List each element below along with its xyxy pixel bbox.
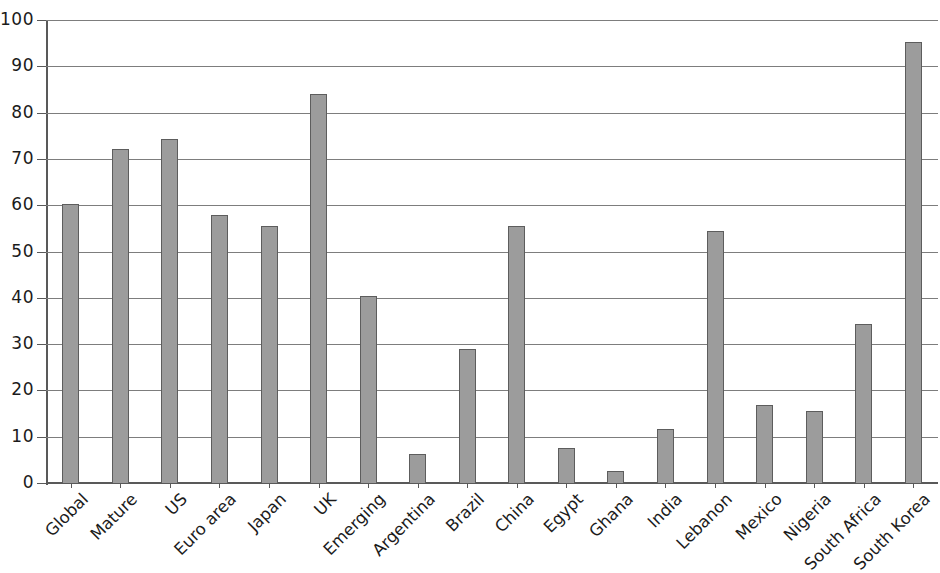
bar <box>112 149 129 483</box>
x-tick-mark <box>517 483 518 488</box>
plot-area <box>46 20 938 483</box>
y-tick-mark-90 <box>37 66 46 67</box>
gridline-60 <box>46 205 938 206</box>
gridline-20 <box>46 390 938 391</box>
gridline-10 <box>46 437 938 438</box>
x-tick-mark <box>418 483 419 488</box>
y-tick-label-30: 30 <box>0 335 34 352</box>
x-tick-mark <box>864 483 865 488</box>
y-tick-mark-100 <box>37 20 46 21</box>
x-tick-mark <box>170 483 171 488</box>
y-tick-mark-70 <box>37 159 46 160</box>
y-tick-label-20: 20 <box>0 381 34 398</box>
bar <box>607 471 624 483</box>
x-tick-mark <box>319 483 320 488</box>
y-tick-label-60: 60 <box>0 196 34 213</box>
x-tick-mark <box>566 483 567 488</box>
bar <box>508 226 525 483</box>
x-tick-mark <box>913 483 914 488</box>
gridline-80 <box>46 113 938 114</box>
y-tick-label-50: 50 <box>0 243 34 260</box>
y-tick-label-100: 100 <box>0 11 34 28</box>
y-tick-mark-40 <box>37 298 46 299</box>
bar <box>756 405 773 483</box>
y-tick-mark-0 <box>37 483 46 484</box>
gridline-50 <box>46 252 938 253</box>
gridline-70 <box>46 159 938 160</box>
y-tick-label-40: 40 <box>0 289 34 306</box>
y-tick-mark-30 <box>37 344 46 345</box>
bar <box>261 226 278 483</box>
gridline-100 <box>46 20 938 21</box>
y-tick-mark-60 <box>37 205 46 206</box>
y-tick-label-10: 10 <box>0 428 34 445</box>
y-tick-label-90: 90 <box>0 57 34 74</box>
x-tick-mark <box>665 483 666 488</box>
y-tick-mark-50 <box>37 252 46 253</box>
x-tick-mark <box>715 483 716 488</box>
x-tick-mark <box>120 483 121 488</box>
bar <box>360 296 377 483</box>
bar <box>409 454 426 483</box>
gridline-30 <box>46 344 938 345</box>
x-tick-mark <box>219 483 220 488</box>
bar <box>62 204 79 483</box>
y-tick-label-70: 70 <box>0 150 34 167</box>
gridline-40 <box>46 298 938 299</box>
x-tick-mark <box>368 483 369 488</box>
x-tick-mark <box>269 483 270 488</box>
x-tick-mark <box>814 483 815 488</box>
gridline-90 <box>46 66 938 67</box>
bar <box>806 411 823 483</box>
bar <box>310 94 327 483</box>
bar <box>707 231 724 483</box>
bar <box>558 448 575 483</box>
bar <box>855 324 872 483</box>
y-tick-mark-10 <box>37 437 46 438</box>
y-tick-mark-80 <box>37 113 46 114</box>
gridline-0 <box>46 482 938 484</box>
x-tick-mark <box>765 483 766 488</box>
y-tick-mark-20 <box>37 390 46 391</box>
bar <box>211 215 228 483</box>
bar <box>161 139 178 483</box>
bar <box>657 429 674 483</box>
x-tick-mark <box>467 483 468 488</box>
bar <box>459 349 476 483</box>
y-tick-label-0: 0 <box>0 474 34 491</box>
bar <box>905 42 922 483</box>
y-tick-label-80: 80 <box>0 104 34 121</box>
x-tick-mark <box>616 483 617 488</box>
bar-chart: 0102030405060708090100 GlobalMatureUSEur… <box>0 0 940 573</box>
x-tick-mark <box>71 483 72 488</box>
